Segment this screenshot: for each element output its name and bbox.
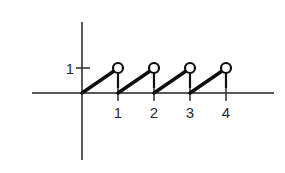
open-endpoint-circle-4 [221,63,231,73]
x-axis-tick-label-3: 3 [186,104,194,121]
ramp-segment-4 [190,69,225,93]
ramp-segment-3 [154,69,189,93]
x-axis-tick-label-2: 2 [150,104,158,121]
y-axis-tick-label-1: 1 [66,60,74,77]
open-endpoint-circle-2 [149,63,159,73]
x-axis-tick-label-1: 1 [114,104,122,121]
open-endpoint-circle-1 [113,63,123,73]
ramp-segment-1 [82,69,117,93]
plot-canvas: 1 1 2 3 4 [0,0,285,173]
open-endpoint-circle-3 [185,63,195,73]
x-axis-tick-label-4: 4 [222,104,230,121]
ramp-segment-2 [118,69,153,93]
sawtooth-wave-figure: 1 1 2 3 4 [0,0,285,173]
